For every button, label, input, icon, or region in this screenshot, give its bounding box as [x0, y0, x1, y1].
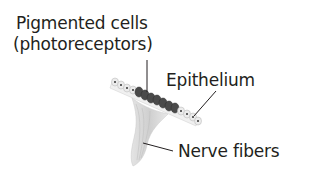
label-photoreceptors: (photoreceptors) [13, 34, 153, 54]
label-pigmented-cells: Pigmented cells [16, 13, 148, 33]
leader-line-epithelium [194, 91, 216, 116]
leader-line-nerve [143, 143, 173, 151]
label-nerve-fibers: Nerve fibers [178, 141, 280, 161]
label-epithelium: Epithelium [166, 70, 255, 90]
